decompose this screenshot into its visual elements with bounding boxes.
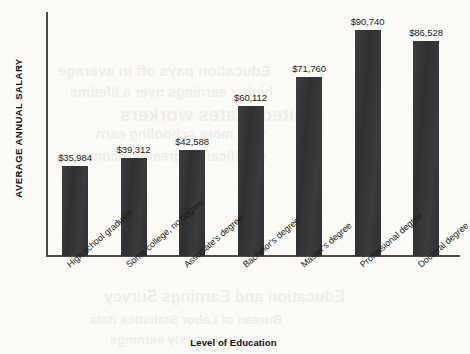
bar-value-label: $86,528 <box>409 27 443 38</box>
bar-value-label: $39,312 <box>117 144 151 155</box>
x-axis-title: Level of Education <box>0 337 467 348</box>
bar-group: $71,760 <box>296 12 322 256</box>
bar[interactable] <box>121 158 147 256</box>
bar-value-label: $90,740 <box>351 16 385 27</box>
y-axis-title: AVERAGE ANNUAL SALARY <box>13 58 24 197</box>
plot-area: $35,984$39,312$42,588$60,112$71,760$90,7… <box>48 12 460 256</box>
bar-group: $90,740 <box>355 12 381 256</box>
bar-value-label: $35,984 <box>58 152 92 163</box>
bar-value-label: $60,112 <box>234 92 267 103</box>
bar[interactable] <box>238 106 264 256</box>
bar[interactable] <box>62 166 88 256</box>
bar-value-label: $42,588 <box>175 136 209 147</box>
bar[interactable] <box>355 30 381 256</box>
bar-value-label: $71,760 <box>292 63 326 74</box>
bar-group: $35,984 <box>62 12 88 256</box>
bar[interactable] <box>296 77 322 256</box>
